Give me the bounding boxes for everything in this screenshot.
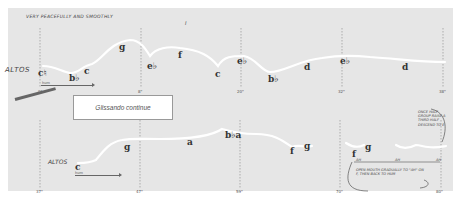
ah-mark: AH (395, 158, 400, 162)
pitch-label: g (119, 43, 125, 52)
pitch-label: c♮ (38, 69, 47, 78)
annotation-divisi: ONCE HALF GROUP RAISE A THIRD HALF DESCE… (418, 110, 446, 127)
pitch-label: g (304, 142, 310, 151)
glissando-instruction-box: Glissando continue (73, 95, 173, 120)
time-marker: 32" (338, 89, 345, 94)
annotation-open-mouth: OPEN MOUTH GRADUALLY TO "AH" ON F, THEN … (356, 168, 426, 176)
hum-duration-arrow (75, 175, 120, 176)
pitch-label: f (290, 147, 294, 156)
system2-voice-label: ALTOS (48, 158, 67, 165)
pitch-label: f (178, 51, 182, 60)
pitch-label: g (124, 143, 130, 152)
section-mark: I (185, 20, 186, 26)
pitch-label: d (402, 63, 408, 72)
pitch-label: b♭a (225, 131, 241, 140)
pitch-label: a (187, 138, 193, 147)
pitch-label: e♭ (147, 62, 157, 71)
time-marker: 37" (36, 189, 43, 194)
time-marker: 59" (236, 189, 243, 194)
time-marker: 20" (237, 89, 244, 94)
time-marker: 38" (439, 89, 446, 94)
pitch-label: c (84, 67, 89, 76)
time-marker: 70" (336, 189, 343, 194)
time-marker: 47" (136, 189, 143, 194)
pitch-label: b♭ (69, 74, 80, 83)
tempo-marking: VERY PEACEFULLY AND SMOOTHLY (26, 14, 113, 19)
pitch-label: e♭ (340, 57, 350, 66)
pitch-label: b♭ (268, 75, 279, 84)
dynamic-hum: hum (75, 171, 83, 175)
system1-voice-label: ALTOS (5, 66, 30, 74)
pitch-label: d (304, 63, 310, 72)
hum-duration-arrow (41, 85, 93, 86)
pitch-label: g (365, 143, 371, 152)
time-marker: 80" (436, 189, 443, 194)
dynamic-hum: hum (42, 81, 50, 85)
ah-mark: AH (436, 158, 441, 162)
pitch-label: e♭ (237, 57, 247, 66)
time-marker: 8" (138, 89, 142, 94)
pitch-label: c (215, 70, 220, 79)
ah-mark: AH (356, 158, 361, 162)
